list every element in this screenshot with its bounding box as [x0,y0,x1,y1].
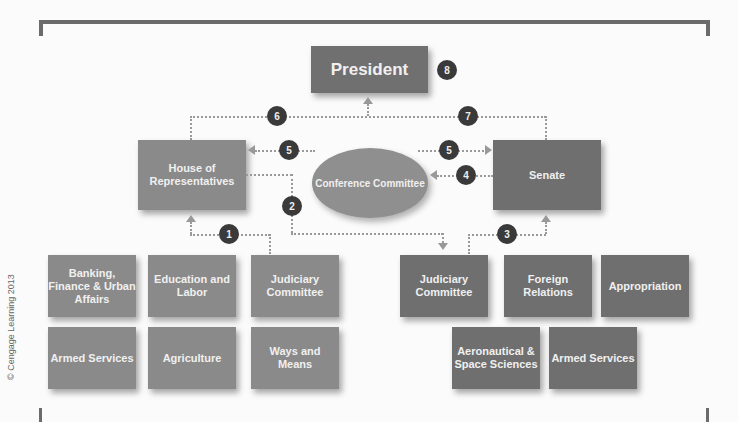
senate-committee-foreign-relations: Foreign Relations [504,255,592,317]
committee-label: Armed Services [551,352,634,365]
connector-6-7 [190,116,546,118]
frame-right-tick [706,20,710,36]
connector-3-a [545,222,547,234]
committee-label: Foreign Relations [504,273,592,299]
committee-label: Judiciary Committee [400,273,488,299]
house-committee-ways-means: Ways and Means [251,327,339,389]
connector-senate-up [545,116,547,140]
step-badge-8: 8 [437,60,457,80]
connector-2-d [442,233,444,243]
committee-label: Banking, Finance & Urban Affairs [48,267,136,306]
arrow-to-house [248,145,255,155]
connector-2-a [246,174,292,176]
house-committee-banking: Banking, Finance & Urban Affairs [48,255,136,317]
committee-label: Education and Labor [148,273,236,299]
step-badge-3: 3 [497,224,517,244]
committee-label: Armed Services [50,352,133,365]
connector-president [367,104,369,116]
step-badge-2: 2 [282,196,302,216]
president-label: President [331,63,408,76]
frame-left-tick [39,20,43,36]
senate-committee-aeronautical: Aeronautical & Space Sciences [452,327,540,389]
frame-top-border [39,20,710,24]
step-badge-6: 6 [267,106,287,126]
senate-box: Senate [493,140,601,210]
connector-house-up [190,116,192,140]
house-box: House of Representatives [138,140,246,210]
connector-1-a [190,222,192,234]
connector-2-c [291,233,443,235]
house-committee-armed-services: Armed Services [48,327,136,389]
connector-1-c [269,234,271,254]
frame-bottom-left-tick [39,408,42,422]
president-box: President [311,46,428,93]
arrow-to-senate-judiciary [438,243,448,250]
step-badge-5-right: 5 [439,140,459,160]
arrow-to-conference [430,170,437,180]
arrow-to-house-from-committee [186,215,196,222]
house-committee-agriculture: Agriculture [148,327,236,389]
conference-committee-ellipse: Conference Committee [312,148,428,218]
step-badge-5-left: 5 [279,140,299,160]
committee-label: Judiciary Committee [251,273,339,299]
house-committee-judiciary: Judiciary Committee [251,255,339,317]
arrow-to-president [363,97,373,104]
committee-label: Aeronautical & Space Sciences [452,345,540,371]
conference-label: Conference Committee [315,177,424,190]
copyright-credit: © Cengage Learning 2013 [6,274,16,380]
arrow-to-senate-from-committee [541,215,551,222]
committee-label: Appropriation [609,280,682,293]
senate-committee-armed-services: Armed Services [549,327,637,389]
arrow-to-senate [485,145,492,155]
senate-committee-appropriation: Appropriation [601,255,689,317]
senate-label: Senate [529,169,565,182]
step-badge-4: 4 [456,165,476,185]
frame-bottom-right-tick [706,408,709,422]
connector-3-c [468,234,470,254]
step-badge-1: 1 [219,224,239,244]
committee-label: Ways and Means [251,345,339,371]
step-badge-7: 7 [458,106,478,126]
senate-committee-judiciary: Judiciary Committee [400,255,488,317]
house-committee-education: Education and Labor [148,255,236,317]
committee-label: Agriculture [163,352,222,365]
house-label: House of Representatives [138,162,246,188]
